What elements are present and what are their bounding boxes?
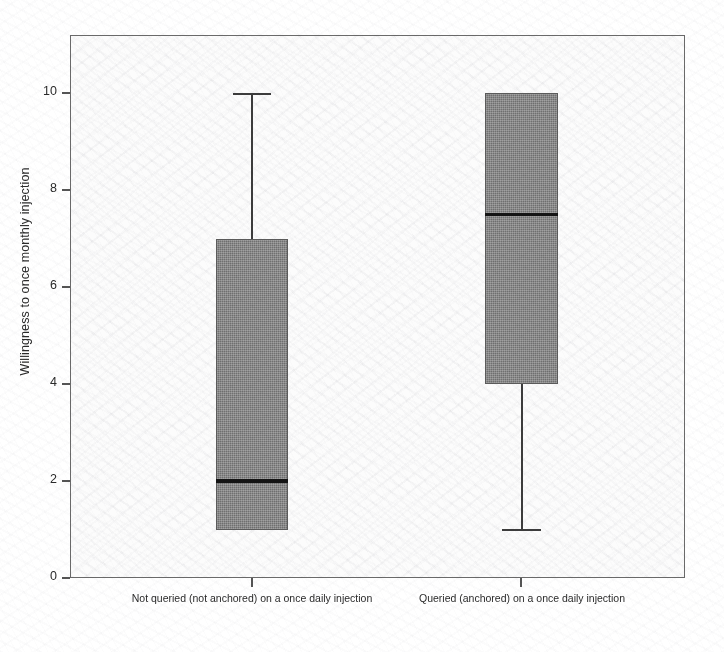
box1-upper-whisker-line	[251, 93, 253, 239]
y-tick-mark	[62, 92, 70, 94]
y-tick-label: 0	[0, 569, 57, 583]
box2-median-line	[485, 213, 558, 216]
y-tick-label: 4	[0, 375, 57, 389]
y-tick-label: 8	[0, 181, 57, 195]
x-axis-label-1: Not queried (not anchored) on a once dai…	[112, 592, 392, 606]
box2-lower-whisker-cap	[502, 529, 541, 531]
y-tick-label: 10	[0, 84, 57, 98]
y-tick-label: 2	[0, 472, 57, 486]
plot-area	[70, 35, 685, 578]
x-tick-mark-1	[251, 578, 253, 587]
box2-lower-whisker-line	[521, 384, 523, 530]
y-tick-mark	[62, 286, 70, 288]
box2-iqr-box	[485, 93, 558, 384]
y-tick-mark	[62, 189, 70, 191]
box1-upper-whisker-cap	[233, 93, 272, 95]
box1-median-line	[216, 479, 288, 482]
box-plot-figure: Willingness to once monthly injection 02…	[0, 0, 724, 652]
y-tick-mark	[62, 383, 70, 385]
y-tick-mark	[62, 577, 70, 579]
x-tick-mark-2	[520, 578, 522, 587]
box1-iqr-box	[216, 239, 288, 530]
y-axis-title: Willingness to once monthly injection	[14, 0, 36, 543]
plot-background-texture	[71, 36, 684, 577]
x-axis-label-2: Queried (anchored) on a once daily injec…	[400, 592, 644, 606]
y-tick-label: 6	[0, 278, 57, 292]
y-tick-mark	[62, 480, 70, 482]
